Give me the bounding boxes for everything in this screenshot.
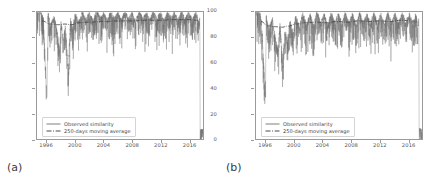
y-tick-mark [251, 140, 254, 141]
x-tick-mark [409, 140, 410, 143]
y-tick-mark [32, 63, 35, 64]
legend-b: Observed similarity 250-days moving aver… [261, 117, 355, 137]
y-tick-label: 80 [177, 34, 217, 39]
y-tick-label: 20 [177, 112, 217, 117]
x-tick-label: 2016 [170, 143, 210, 148]
y-tick-mark [32, 88, 35, 89]
line-sample-solid-icon [46, 121, 61, 127]
panel-b: Observed similarity 250-days moving aver… [219, 0, 438, 174]
y-tick-mark [251, 88, 254, 89]
legend-item-average-b: 250-days moving average [265, 127, 350, 134]
panel-label-b: (b) [226, 162, 242, 173]
x-tick-mark [351, 140, 352, 143]
legend-label-average-b: 250-days moving average [283, 128, 350, 134]
y-tick-mark [251, 63, 254, 64]
x-tick-mark [103, 140, 104, 143]
legend-label-observed-a: Observed similarity [64, 121, 114, 127]
y-tick-mark [32, 37, 35, 38]
legend-item-observed-b: Observed similarity [265, 120, 350, 127]
legend-item-observed-a: Observed similarity [46, 120, 131, 127]
figure-two-panel-similarity: Observed similarity 250-days moving aver… [0, 0, 438, 174]
legend-label-observed-b: Observed similarity [283, 121, 333, 127]
line-sample-dashdot-icon [46, 128, 61, 134]
legend-a: Observed similarity 250-days moving aver… [42, 117, 136, 137]
y-tick-mark [32, 114, 35, 115]
x-tick-mark [380, 140, 381, 143]
x-tick-mark [322, 140, 323, 143]
legend-item-average-a: 250-days moving average [46, 127, 131, 134]
x-tick-mark [294, 140, 295, 143]
y-tick-mark [32, 11, 35, 12]
x-tick-label: 2016 [389, 143, 429, 148]
panel-label-a: (a) [7, 162, 22, 173]
y-tick-mark [32, 140, 35, 141]
y-tick-label: 60 [177, 60, 217, 65]
y-tick-label: 100 [177, 8, 217, 13]
line-sample-dashdot-icon [265, 128, 280, 134]
x-tick-mark [132, 140, 133, 143]
x-tick-mark [75, 140, 76, 143]
y-tick-mark [251, 114, 254, 115]
legend-label-average-a: 250-days moving average [64, 128, 131, 134]
y-tick-label: 0 [177, 137, 217, 142]
x-tick-mark [46, 140, 47, 143]
x-tick-mark [265, 140, 266, 143]
y-tick-label: 40 [177, 86, 217, 91]
y-tick-mark [251, 11, 254, 12]
y-tick-mark [251, 37, 254, 38]
x-tick-mark [161, 140, 162, 143]
line-sample-solid-icon [265, 121, 280, 127]
